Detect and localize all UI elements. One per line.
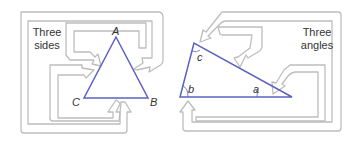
triangle-congruence-diagram: Three sides A C B Three angles c b a: [0, 0, 354, 142]
angle-label-c: c: [197, 52, 203, 63]
arrow-inner-top: [66, 23, 146, 66]
arrow-middle-left: [50, 65, 121, 121]
arrow-top-right: [218, 27, 262, 67]
vertex-label-c: C: [72, 97, 80, 108]
vertex-label-b: B: [150, 97, 157, 108]
vertex-label-a: A: [112, 26, 119, 37]
caption-three-angles: Three angles: [297, 27, 337, 51]
caption-line: angles: [297, 40, 337, 51]
diagram-graphics: [0, 0, 354, 142]
caption-line: Three: [297, 27, 337, 38]
caption-line: Three: [28, 27, 66, 38]
arrow-angle-a: [196, 65, 325, 121]
caption-three-sides: Three sides: [28, 27, 66, 51]
caption-line: sides: [28, 40, 66, 51]
angle-label-b: b: [188, 84, 194, 95]
angle-label-a: a: [253, 84, 259, 95]
